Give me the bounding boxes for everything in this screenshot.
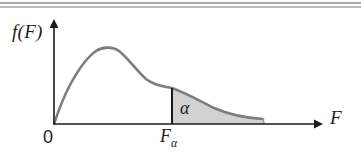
- origin-tick-label: 0: [43, 128, 53, 146]
- critical-value-tick-label: Fα: [160, 127, 177, 149]
- alpha-area-label: α: [180, 99, 189, 117]
- critical-value-main: F: [160, 126, 171, 146]
- y-axis-label: f(F): [12, 22, 43, 41]
- x-axis-label: F: [330, 108, 342, 127]
- y-axis-arrowhead-icon: [50, 19, 59, 28]
- x-axis-arrowhead-icon: [314, 120, 323, 129]
- curve-tail-terminus: [263, 118, 264, 124]
- density-curve: [54, 48, 263, 124]
- f-distribution-plot: [0, 0, 361, 163]
- critical-value-subscript: α: [171, 136, 177, 150]
- figure-container: f(F) F 0 Fα α: [0, 0, 361, 163]
